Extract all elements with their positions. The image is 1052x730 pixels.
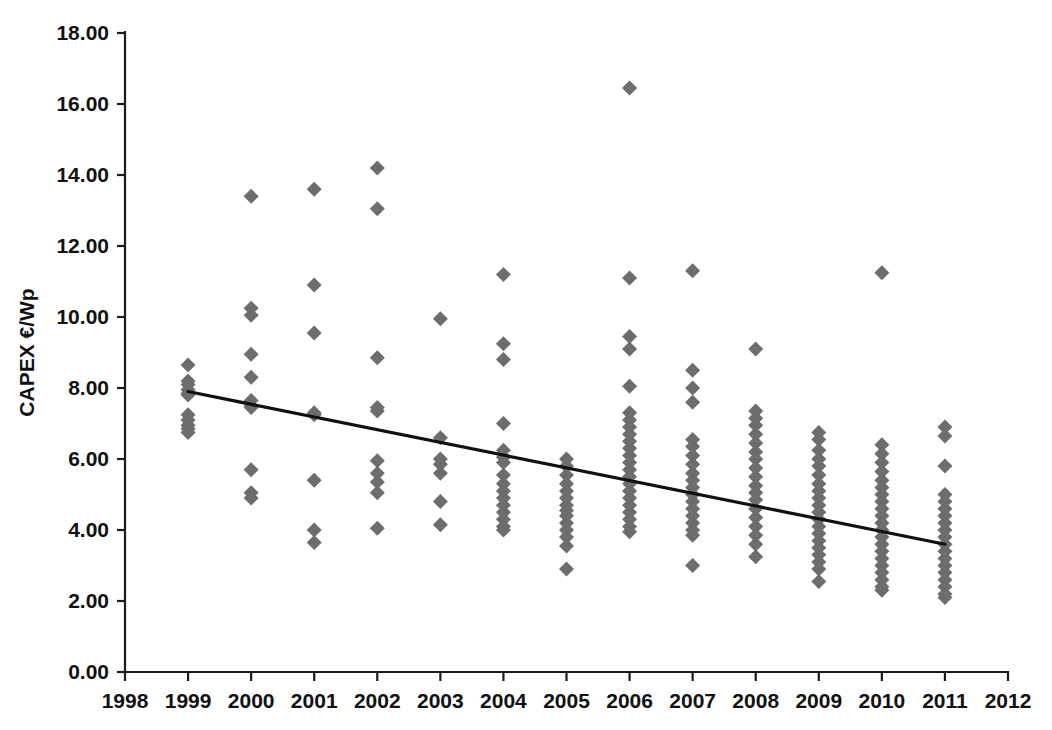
x-tick-label: 1999 <box>165 689 212 712</box>
y-tick-label: 4.00 <box>68 518 109 541</box>
x-tick-label: 1998 <box>102 689 149 712</box>
data-point-marker <box>748 549 763 564</box>
data-point-marker <box>811 574 826 589</box>
x-tick-label: 2009 <box>795 689 842 712</box>
data-point-marker <box>622 270 637 285</box>
x-tick-label: 2005 <box>543 689 590 712</box>
y-axis-tick-marks <box>117 33 125 672</box>
data-point-marker <box>874 265 889 280</box>
x-tick-label: 2011 <box>922 689 968 712</box>
data-point-marker <box>370 201 385 216</box>
data-point-marker <box>244 370 259 385</box>
y-axis-title: CAPEX €/Wp <box>15 288 38 416</box>
data-point-marker <box>433 494 448 509</box>
data-point-marker <box>244 189 259 204</box>
data-point-marker <box>937 428 952 443</box>
data-point-marker <box>370 485 385 500</box>
x-tick-label: 2001 <box>291 689 338 712</box>
data-point-marker <box>307 182 322 197</box>
data-point-marker <box>559 538 574 553</box>
data-point-marker <box>685 395 700 410</box>
data-point-marker <box>622 341 637 356</box>
data-point-marker <box>496 352 511 367</box>
data-point-marker <box>496 416 511 431</box>
data-point-marker <box>307 535 322 550</box>
data-point-marker <box>559 562 574 577</box>
y-axis-tick-labels: 0.002.004.006.008.0010.0012.0014.0016.00… <box>56 21 109 683</box>
chart-canvas: 0.002.004.006.008.0010.0012.0014.0016.00… <box>0 0 1052 730</box>
x-tick-label: 2003 <box>417 689 464 712</box>
data-point-marker <box>307 278 322 293</box>
data-point-marker <box>433 311 448 326</box>
x-tick-label: 2002 <box>354 689 401 712</box>
data-point-marker <box>685 381 700 396</box>
data-point-marker <box>370 160 385 175</box>
y-tick-label: 12.00 <box>56 234 109 257</box>
data-point-marker <box>937 459 952 474</box>
y-tick-label: 14.00 <box>56 163 109 186</box>
data-point-marker <box>244 347 259 362</box>
data-point-marker <box>433 517 448 532</box>
x-tick-label: 2008 <box>732 689 779 712</box>
data-point-marker <box>370 350 385 365</box>
y-tick-label: 8.00 <box>68 376 109 399</box>
x-axis-tick-marks <box>125 672 1008 681</box>
data-point-marker <box>685 263 700 278</box>
data-point-marker <box>622 379 637 394</box>
data-point-markers <box>181 81 953 605</box>
x-tick-label: 2012 <box>985 689 1032 712</box>
y-tick-label: 16.00 <box>56 92 109 115</box>
x-tick-label: 2000 <box>228 689 275 712</box>
capex-scatter-chart: 0.002.004.006.008.0010.0012.0014.0016.00… <box>0 0 1052 730</box>
data-point-marker <box>748 341 763 356</box>
data-point-marker <box>685 363 700 378</box>
data-point-marker <box>496 336 511 351</box>
x-tick-label: 2006 <box>606 689 653 712</box>
data-point-marker <box>307 473 322 488</box>
y-tick-label: 6.00 <box>68 447 109 470</box>
data-point-marker <box>433 466 448 481</box>
data-point-marker <box>685 558 700 573</box>
y-tick-label: 10.00 <box>56 305 109 328</box>
y-tick-label: 2.00 <box>68 589 109 612</box>
y-tick-label: 18.00 <box>56 21 109 44</box>
x-axis-tick-labels: 1998199920002001200220032004200520062007… <box>102 689 1032 712</box>
data-point-marker <box>622 81 637 96</box>
data-point-marker <box>181 357 196 372</box>
y-tick-label: 0.00 <box>68 660 109 683</box>
x-tick-label: 2007 <box>669 689 716 712</box>
data-point-marker <box>370 521 385 536</box>
data-point-marker <box>496 267 511 282</box>
x-tick-label: 2010 <box>858 689 905 712</box>
data-point-marker <box>307 325 322 340</box>
x-tick-label: 2004 <box>480 689 527 712</box>
data-point-marker <box>244 462 259 477</box>
